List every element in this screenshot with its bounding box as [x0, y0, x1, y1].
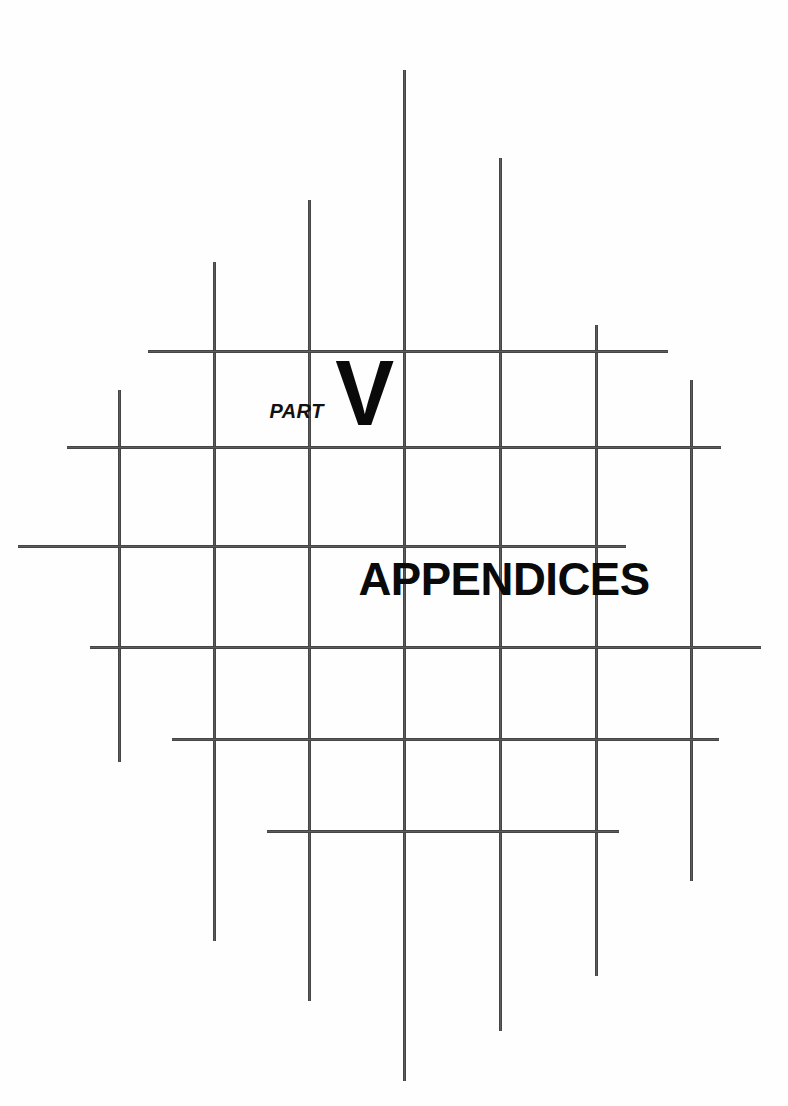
page-title: APPENDICES — [358, 556, 649, 602]
grid-horizontal-line — [90, 646, 761, 649]
part-label: PART — [269, 400, 323, 421]
grid-vertical-line — [690, 380, 693, 881]
grid-horizontal-line — [18, 545, 626, 548]
part-marker: PART V — [268, 358, 394, 430]
grid-vertical-line — [595, 325, 598, 976]
grid-horizontal-line — [67, 446, 721, 449]
grid-vertical-line — [213, 262, 216, 941]
part-numeral: V — [335, 358, 392, 430]
grid-horizontal-line — [267, 830, 619, 833]
grid-horizontal-line — [148, 350, 668, 353]
grid-horizontal-line — [172, 738, 719, 741]
grid-vertical-line — [308, 200, 311, 1001]
page-canvas: PART V APPENDICES — [0, 0, 788, 1106]
